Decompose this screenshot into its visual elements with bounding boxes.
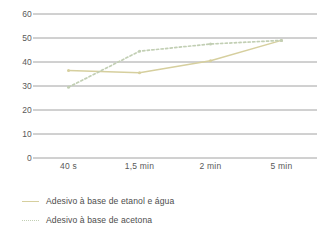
data-point	[138, 50, 141, 53]
data-point	[67, 86, 70, 89]
y-axis-label: 30	[8, 82, 32, 91]
series-line-1	[69, 40, 282, 87]
y-axis-label: 10	[8, 130, 32, 139]
data-point	[209, 43, 212, 46]
plot-svg	[0, 0, 323, 185]
gridlines-group	[33, 14, 317, 158]
x-axis-label: 1,5 min	[125, 162, 154, 171]
y-axis-label: 40	[8, 58, 32, 67]
x-axis-label: 40 s	[60, 162, 77, 171]
data-point	[280, 39, 283, 42]
data-point	[138, 71, 141, 74]
series-line-0	[69, 40, 282, 72]
line-chart-figure: 0102030405060 40 s1,5 min2 min5 min Ades…	[0, 0, 323, 235]
series-group	[67, 39, 283, 89]
y-axis-label: 60	[8, 10, 32, 19]
legend-label-etanol-agua: Adesivo à base de etanol e água	[46, 197, 174, 206]
x-axis-label: 5 min	[271, 162, 293, 171]
legend-line-swatch-solid-icon	[22, 198, 39, 206]
y-axis-tick-labels: 0102030405060	[0, 0, 32, 185]
y-axis-label: 50	[8, 34, 32, 43]
legend-label-acetona: Adesivo à base de acetona	[46, 216, 152, 225]
plot-area: 0102030405060 40 s1,5 min2 min5 min	[0, 0, 323, 185]
chart-legend: Adesivo à base de etanol e água Adesivo …	[22, 192, 322, 230]
data-point	[67, 69, 70, 72]
legend-item-etanol-agua: Adesivo à base de etanol e água	[22, 192, 322, 211]
y-axis-label: 0	[8, 154, 32, 163]
y-axis-label: 20	[8, 106, 32, 115]
legend-item-acetona: Adesivo à base de acetona	[22, 211, 322, 230]
data-point	[209, 59, 212, 62]
x-axis-tick-labels: 40 s1,5 min2 min5 min	[0, 162, 323, 182]
x-axis-label: 2 min	[200, 162, 222, 171]
legend-line-swatch-dotted-icon	[22, 217, 39, 225]
